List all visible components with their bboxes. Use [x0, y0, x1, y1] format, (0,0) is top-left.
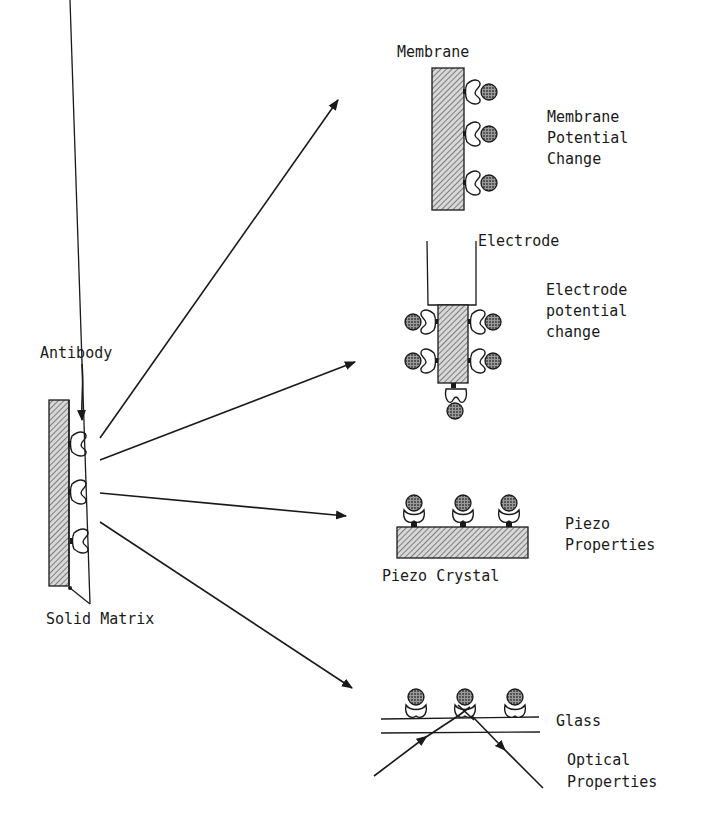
membrane-bar — [432, 68, 464, 210]
arrow-to-membrane — [100, 100, 338, 438]
piezo-crystal-label: Piezo Crystal — [382, 567, 499, 585]
antibody-icon — [70, 529, 88, 553]
antibody-icon — [68, 432, 86, 456]
solid-matrix-pointer — [70, 0, 90, 604]
electrode-panel: Electrode — [405, 232, 636, 419]
antibody-antigen-complex-icon — [405, 349, 438, 373]
incident-light-ray — [374, 739, 423, 776]
optical-panel: Glass Optical Properties — [374, 689, 657, 791]
membrane-panel: Membrane Membrane Potential Change — [397, 43, 637, 210]
piezo-panel: Piezo Crystal Piezo Properties — [382, 495, 655, 585]
antibody-antigen-complex-icon — [463, 80, 497, 104]
antibody-antigen-complex-icon — [453, 495, 474, 527]
antibody-antigen-complex-icon — [463, 171, 497, 195]
piezo-property-label: Piezo Properties — [565, 515, 655, 554]
electrode-sensing-bar — [438, 305, 468, 383]
antibody-icon — [68, 480, 86, 504]
electrode-housing — [427, 241, 476, 305]
piezo-crystal-bar — [397, 527, 528, 558]
optical-property-label: Optical Properties — [567, 751, 657, 791]
glass-label: Glass — [556, 712, 601, 730]
arrow-to-electrode — [100, 362, 355, 460]
solid-matrix-group: Antibody Solid Matrix — [40, 0, 154, 628]
antibody-antigen-complex-icon — [404, 495, 425, 527]
antibody-antigen-complex-icon — [455, 689, 476, 717]
electrode-property-label: Electrode potential change — [546, 281, 636, 341]
antibody-antigen-complex-icon — [468, 349, 501, 373]
incident-light-ray-inside — [420, 716, 458, 741]
solid-matrix-label: Solid Matrix — [46, 610, 154, 628]
antibody-antigen-complex-icon — [499, 495, 520, 527]
antibody-antigen-complex-icon — [463, 122, 497, 146]
membrane-property-label: Membrane Potential Change — [547, 108, 637, 168]
arrow-to-optical — [100, 522, 352, 688]
antibody-label: Antibody — [40, 344, 112, 362]
arrow-to-piezo — [100, 493, 346, 516]
antibody-antigen-complex-icon — [505, 689, 526, 717]
glass-bottom-surface — [381, 732, 540, 733]
transduction-arrows — [100, 100, 355, 688]
membrane-component-label: Membrane — [397, 43, 469, 61]
antibody-antigen-complex-icon — [446, 383, 467, 419]
electrode-component-label: Electrode — [478, 232, 559, 250]
biosensor-diagram: Antibody Solid Matrix Membrane — [0, 0, 727, 831]
antibody-antigen-complex-icon — [405, 310, 438, 334]
solid-matrix-bar — [49, 400, 69, 586]
antibody-antigen-complex-icon — [468, 310, 501, 334]
antibody-antigen-complex-icon — [406, 689, 427, 717]
reflected-light-ray — [472, 716, 502, 747]
